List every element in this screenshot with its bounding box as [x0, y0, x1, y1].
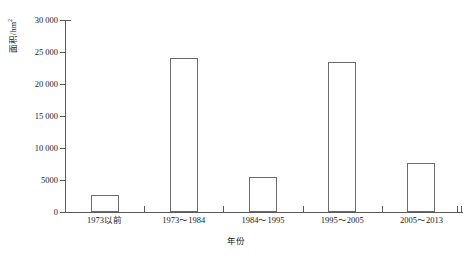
x-axis-tick-label: 1995～2005 [303, 216, 382, 225]
x-axis-tick-mark [303, 206, 304, 213]
y-axis-tick-label: 30 000 [10, 16, 58, 25]
bar-chart: 面积/hm2 0500010 00015 00020 00025 00030 0… [0, 0, 472, 267]
x-axis-tick-mark [144, 206, 145, 213]
y-axis-tick-mark [60, 84, 65, 85]
y-axis-tick-mark [60, 148, 65, 149]
y-axis-tick-mark [60, 20, 65, 21]
x-axis-tick-label: 1973以前 [65, 216, 144, 225]
x-axis-tick-mark [223, 206, 224, 213]
bar [91, 195, 119, 212]
y-axis-top-cap [65, 20, 71, 21]
x-axis-tick-label: 2005～2013 [382, 216, 461, 225]
x-axis-tick-mark [65, 206, 66, 213]
y-axis-tick-label: 5000 [10, 176, 58, 185]
x-axis-title: 年份 [0, 234, 472, 246]
bar [170, 58, 198, 212]
bar [328, 62, 356, 212]
y-axis-tick-mark [60, 116, 65, 117]
x-axis-tick-label: 1984～1995 [223, 216, 302, 225]
bar [249, 177, 277, 212]
x-axis-tick-mark [461, 206, 462, 213]
x-axis-tick-mark [382, 206, 383, 213]
x-axis-right-cap [457, 206, 458, 213]
y-axis-tick-labels: 0500010 00015 00020 00025 00030 000 [10, 0, 58, 267]
y-axis-tick-mark [60, 180, 65, 181]
bar [407, 163, 435, 212]
y-axis-tick-mark [60, 52, 65, 53]
y-axis-tick-label: 15 000 [10, 112, 58, 121]
x-axis-line [65, 212, 463, 213]
x-axis-tick-label: 1973～1984 [144, 216, 223, 225]
y-axis-tick-label: 0 [10, 208, 58, 217]
y-axis-tick-label: 25 000 [10, 48, 58, 57]
y-axis-tick-label: 20 000 [10, 80, 58, 89]
y-axis-tick-label: 10 000 [10, 144, 58, 153]
